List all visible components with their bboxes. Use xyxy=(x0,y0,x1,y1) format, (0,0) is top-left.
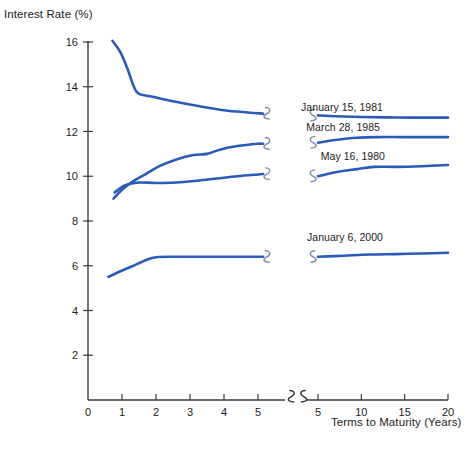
x-axis-tick-label-right: 10 xyxy=(355,406,367,418)
plot-area xyxy=(0,0,471,453)
y-axis-tick-label: 6 xyxy=(72,260,78,272)
series-label: January 6, 2000 xyxy=(307,231,383,243)
series-line-left xyxy=(114,144,264,199)
series-line-left xyxy=(115,174,264,192)
y-axis-tick-label: 4 xyxy=(72,305,78,317)
y-axis-tick-label: 14 xyxy=(66,81,78,93)
x-axis-tick-label-right: 15 xyxy=(399,406,411,418)
series-label: March 28, 1985 xyxy=(306,121,380,133)
x-axis-tick-label-right: 20 xyxy=(442,406,454,418)
x-axis-tick-label-right: 5 xyxy=(315,406,321,418)
x-axis-tick-label-left: 1 xyxy=(119,406,125,418)
y-axis-tick-label: 16 xyxy=(66,36,78,48)
series-line-right xyxy=(318,115,448,117)
x-axis-tick-label-left: 4 xyxy=(221,406,227,418)
x-axis-tick-label-left: 3 xyxy=(187,406,193,418)
series-line-right xyxy=(318,137,448,143)
x-axis-tick-label-origin: 0 xyxy=(85,406,91,418)
y-axis-tick-label: 8 xyxy=(72,215,78,227)
series-line-left xyxy=(108,257,263,277)
x-axis-tick-label-left: 5 xyxy=(255,406,261,418)
y-axis-tick-label: 2 xyxy=(72,349,78,361)
series-line-right xyxy=(318,253,448,257)
series-label: May 16, 1980 xyxy=(321,150,385,162)
y-axis-tick-label: 12 xyxy=(66,126,78,138)
series-line-right xyxy=(318,165,448,176)
interest-rate-yield-curve-chart: Interest Rate (%) Terms to Maturity (Yea… xyxy=(0,0,471,453)
series-label: January 15, 1981 xyxy=(301,101,383,113)
x-axis-tick-label-left: 2 xyxy=(153,406,159,418)
y-axis-tick-label: 10 xyxy=(66,170,78,182)
series-line-left xyxy=(112,41,263,114)
